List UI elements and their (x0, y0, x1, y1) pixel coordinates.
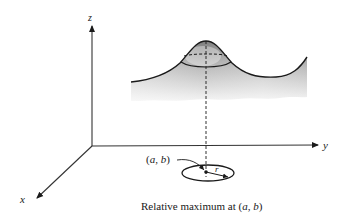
radius-label: r (215, 164, 219, 174)
y-axis-label: y (322, 139, 328, 151)
surface (131, 41, 307, 101)
axes (37, 26, 318, 198)
relative-maximum-diagram: z y x r (a, b) Relative maximum at (a, b… (0, 0, 358, 222)
caption: Relative maximum at (a, b) (141, 200, 263, 213)
point-label: (a, b) (146, 153, 170, 166)
neighborhood-disk: r (182, 164, 234, 181)
y-axis (92, 145, 318, 146)
x-axis (37, 146, 92, 198)
z-axis-label: z (87, 12, 92, 23)
x-axis-label: x (19, 193, 25, 205)
